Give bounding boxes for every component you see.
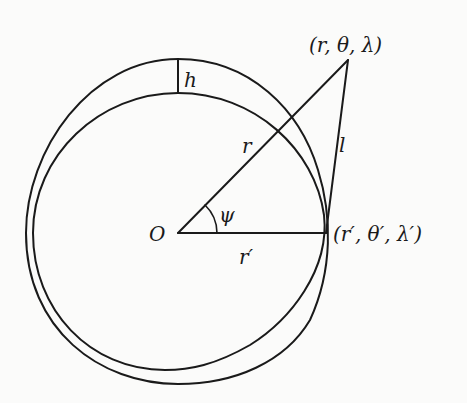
angle-arc xyxy=(205,205,217,233)
outer-surface-curve xyxy=(26,59,328,384)
diagram-canvas: O h r l ψ r′ (r, θ, λ) (r′, θ′, λ′) xyxy=(0,0,467,403)
radius-prime-label: r′ xyxy=(239,245,254,269)
distance-label: l xyxy=(339,133,345,157)
point-label: (r, θ, λ) xyxy=(309,33,382,57)
radius-label: r xyxy=(242,134,253,158)
angle-label: ψ xyxy=(219,203,235,227)
origin-label: O xyxy=(149,222,165,246)
point-prime-label: (r′, θ′, λ′) xyxy=(333,222,422,246)
diagram-svg: O h r l ψ r′ (r, θ, λ) (r′, θ′, λ′) xyxy=(0,0,467,403)
height-label: h xyxy=(184,68,197,92)
